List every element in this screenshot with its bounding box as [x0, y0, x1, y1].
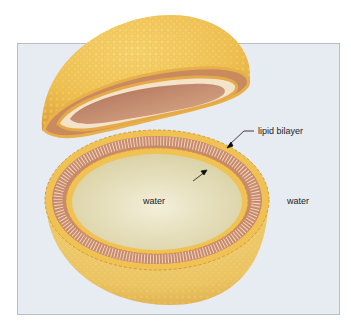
inner-water-label: water	[143, 196, 165, 206]
liposome-illustration	[0, 0, 351, 330]
lower-hemisphere	[45, 130, 269, 305]
outer-water-label: water	[287, 196, 309, 206]
upper-hemisphere	[42, 15, 250, 137]
lipid-bilayer-label: lipid bilayer	[258, 126, 303, 136]
